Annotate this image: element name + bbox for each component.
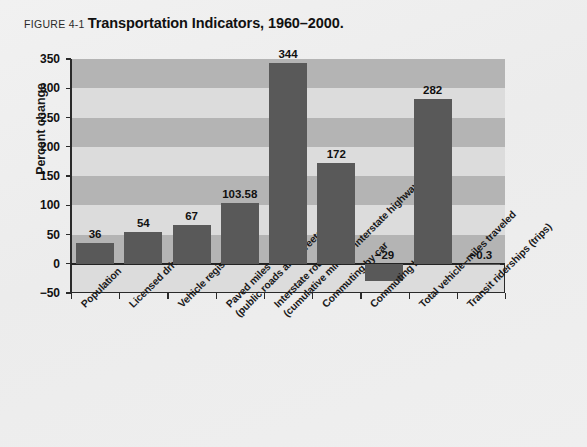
- bar: [462, 264, 500, 265]
- y-tick-label: 50: [18, 228, 60, 242]
- bar: [269, 63, 307, 264]
- x-tick-mark: [505, 293, 506, 299]
- bar-value-label: −29: [349, 249, 419, 261]
- y-tick-label: 300: [18, 81, 60, 95]
- y-tick-mark: [66, 58, 71, 59]
- figure-page: FIGURE 4-1Transportation Indicators, 196…: [0, 0, 587, 447]
- x-tick-mark: [167, 293, 168, 299]
- bar-value-label: −0.3: [446, 249, 516, 261]
- y-tick-mark: [66, 146, 71, 147]
- bar-value-label: 67: [157, 210, 227, 222]
- bar-value-label: 344: [253, 48, 323, 60]
- y-tick-mark: [66, 263, 71, 264]
- y-tick-mark: [66, 88, 71, 89]
- y-tick-label: −50: [18, 286, 60, 300]
- bar: [414, 99, 452, 264]
- bar: [221, 203, 259, 264]
- y-tick-label: 100: [18, 198, 60, 212]
- bar-value-label: 282: [398, 84, 468, 96]
- bar-value-label: 103.58: [205, 188, 275, 200]
- y-axis-title: Percent change: [34, 44, 48, 214]
- figure-number: FIGURE 4-1: [24, 18, 85, 30]
- bar: [173, 225, 211, 264]
- y-tick-label: 200: [18, 140, 60, 154]
- page-title: Transportation Indicators, 1960–2000.: [88, 15, 344, 31]
- x-tick-mark: [71, 293, 72, 299]
- x-tick-mark: [457, 293, 458, 299]
- y-tick-label: 150: [18, 169, 60, 183]
- y-tick-mark: [66, 175, 71, 176]
- y-tick-mark: [66, 205, 71, 206]
- x-tick-mark: [312, 293, 313, 299]
- bar: [124, 232, 162, 264]
- bar: [76, 243, 114, 264]
- y-tick-label: 350: [18, 52, 60, 66]
- bar-value-label: 172: [301, 148, 371, 160]
- x-tick-mark: [119, 293, 120, 299]
- y-tick-mark: [66, 117, 71, 118]
- bar-value-label: 36: [60, 228, 130, 240]
- y-tick-label: 0: [18, 257, 60, 271]
- x-tick-mark: [360, 293, 361, 299]
- x-tick-mark: [216, 293, 217, 299]
- figure-caption: FIGURE 4-1Transportation Indicators, 196…: [24, 14, 344, 32]
- x-tick-mark: [409, 293, 410, 299]
- x-tick-mark: [264, 293, 265, 299]
- y-tick-label: 250: [18, 111, 60, 125]
